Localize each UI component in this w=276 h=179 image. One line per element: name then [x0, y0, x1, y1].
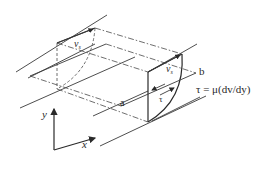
label-vs-back: vs [74, 38, 81, 50]
label-axis-x: x [81, 138, 87, 150]
label-vs-front: vs [166, 63, 173, 75]
element-box [30, 28, 196, 122]
coordinate-axes [54, 109, 95, 150]
label-tau: τ [159, 94, 163, 104]
label-a: a [120, 97, 125, 108]
shear-flow-diagram: vs vs b a τ τ = μ(dv/dy) y x [0, 0, 276, 179]
x-axis [54, 138, 95, 150]
shear-equation: τ = μ(dv/dy) [196, 83, 251, 96]
label-b: b [199, 65, 205, 77]
label-axis-y: y [41, 108, 47, 120]
